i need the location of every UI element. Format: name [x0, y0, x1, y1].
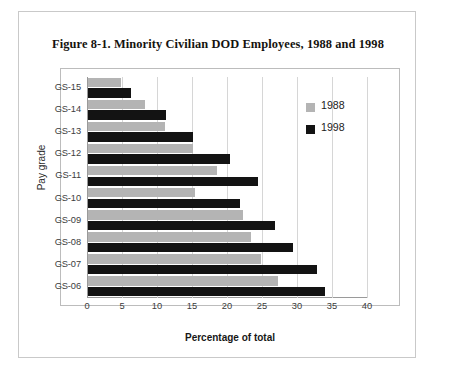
- figure-frame: Figure 8-1. Minority Civilian DOD Employ…: [18, 11, 416, 358]
- chart-plot-frame: GS-15GS-14GS-13GS-12GS-11GS-10GS-09GS-08…: [60, 68, 400, 306]
- legend-swatch-1988: [306, 103, 315, 112]
- bar-gs-08-1988: [88, 232, 251, 241]
- y-tick-gs-08: GS-08: [29, 237, 81, 247]
- bar-gs-15-1998: [88, 88, 131, 97]
- legend-swatch-1998: [306, 125, 315, 134]
- x-axis-title: Percentage of total: [60, 332, 400, 343]
- bar-gs-10-1998: [88, 199, 240, 208]
- x-tick-35: 35: [320, 301, 344, 311]
- bar-gs-14-1998: [88, 110, 166, 119]
- bar-gs-10-1988: [88, 188, 195, 197]
- bar-gs-09-1988: [88, 210, 243, 219]
- x-tick-40: 40: [355, 301, 379, 311]
- x-tick-20: 20: [215, 301, 239, 311]
- bar-gs-15-1988: [88, 78, 121, 87]
- bar-gs-13-1988: [88, 122, 165, 131]
- legend-label-1988: 1988: [321, 99, 345, 111]
- y-tick-gs-06: GS-06: [29, 281, 81, 291]
- x-tick-25: 25: [250, 301, 274, 311]
- gridline: [367, 77, 368, 298]
- bar-gs-06-1988: [88, 276, 278, 285]
- x-tick-10: 10: [145, 301, 169, 311]
- bar-gs-09-1998: [88, 221, 275, 230]
- bar-gs-06-1998: [88, 287, 325, 296]
- bar-gs-07-1998: [88, 265, 317, 274]
- x-tick-0: 0: [75, 301, 99, 311]
- bar-gs-11-1998: [88, 177, 258, 186]
- y-tick-gs-07: GS-07: [29, 259, 81, 269]
- x-tick-15: 15: [180, 301, 204, 311]
- y-tick-gs-15: GS-15: [29, 82, 81, 92]
- y-axis-title: Pay grade: [36, 108, 47, 228]
- bar-gs-08-1998: [88, 243, 293, 252]
- bar-gs-13-1998: [88, 132, 193, 141]
- x-tick-30: 30: [285, 301, 309, 311]
- x-tick-5: 5: [110, 301, 134, 311]
- legend-label-1998: 1998: [321, 121, 345, 133]
- figure-caption: Figure 8-1. Minority Civilian DOD Employ…: [19, 37, 417, 52]
- bar-gs-12-1998: [88, 154, 230, 163]
- bar-gs-11-1988: [88, 166, 217, 175]
- bar-gs-07-1988: [88, 254, 261, 263]
- bar-gs-12-1988: [88, 144, 193, 153]
- bar-gs-14-1988: [88, 100, 145, 109]
